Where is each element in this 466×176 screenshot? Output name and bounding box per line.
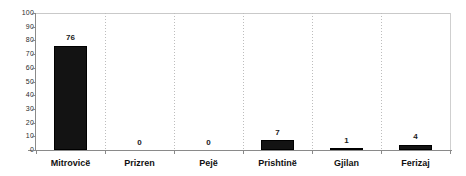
x-tick-mark-2	[174, 150, 175, 154]
y-tick-label-0: 0	[0, 145, 34, 155]
bar-mitrovice[interactable]	[54, 46, 87, 150]
x-axis-label-gjilan: Gjilan	[311, 157, 382, 169]
x-tick-mark-3	[243, 150, 244, 154]
y-tick-mark-100	[32, 13, 36, 14]
bar-prishtine[interactable]	[261, 140, 294, 150]
x-axis-line	[28, 150, 452, 151]
bar-chart: 100 90 80 70 60 50 40 30 20 10 0 76 0 0 …	[0, 0, 466, 176]
bar-value-peje: 0	[188, 138, 229, 148]
x-axis-label-mitrovice: Mitrovicë	[35, 157, 106, 169]
bar-gjilan[interactable]	[330, 148, 363, 150]
bar-ferizaj[interactable]	[399, 145, 432, 151]
y-tick-mark-30	[32, 109, 36, 110]
y-tick-label-90: 90	[0, 22, 34, 32]
category-separator-2	[174, 13, 175, 150]
y-tick-mark-50	[32, 82, 36, 83]
category-separator-5	[381, 13, 382, 150]
y-tick-mark-90	[32, 27, 36, 28]
bar-value-prizren: 0	[119, 138, 160, 148]
y-tick-label-80: 80	[0, 35, 34, 45]
plot-right-border	[450, 13, 451, 151]
y-tick-label-60: 60	[0, 63, 34, 73]
x-axis-label-prishtine: Prishtinë	[242, 157, 313, 169]
bar-value-prishtine: 7	[257, 128, 298, 138]
y-tick-label-40: 40	[0, 90, 34, 100]
x-tick-mark-4	[312, 150, 313, 154]
category-separator-4	[312, 13, 313, 150]
x-axis-label-peje: Pejë	[173, 157, 244, 169]
bar-value-ferizaj: 4	[395, 132, 436, 142]
bar-value-mitrovice: 76	[50, 33, 91, 43]
category-separator-3	[243, 13, 244, 150]
bar-value-gjilan: 1	[326, 136, 367, 146]
y-tick-mark-40	[32, 95, 36, 96]
x-tick-mark-5	[381, 150, 382, 154]
y-tick-label-10: 10	[0, 131, 34, 141]
category-separator-1	[105, 13, 106, 150]
y-tick-label-20: 20	[0, 118, 34, 128]
x-tick-mark-0	[36, 150, 37, 154]
x-tick-mark-1	[105, 150, 106, 154]
y-tick-mark-10	[32, 136, 36, 137]
y-tick-mark-70	[32, 54, 36, 55]
x-axis-label-ferizaj: Ferizaj	[380, 157, 451, 169]
y-tick-label-100: 100	[0, 8, 34, 18]
x-tick-mark-6	[450, 150, 451, 154]
y-tick-mark-20	[32, 123, 36, 124]
y-tick-mark-60	[32, 68, 36, 69]
x-axis-label-prizren: Prizren	[104, 157, 175, 169]
y-tick-mark-80	[32, 40, 36, 41]
y-tick-label-30: 30	[0, 104, 34, 114]
y-tick-label-70: 70	[0, 49, 34, 59]
y-tick-label-50: 50	[0, 77, 34, 87]
